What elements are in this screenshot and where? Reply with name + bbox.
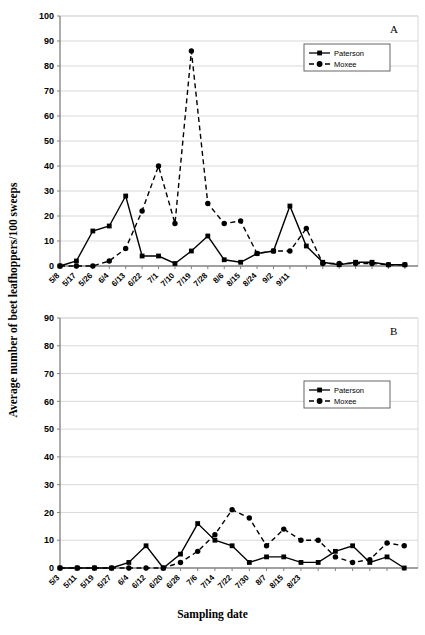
y-tick-label: 50: [44, 424, 54, 434]
x-axis-title: Sampling date: [0, 608, 425, 620]
x-tick-label: 5/26: [77, 271, 95, 289]
data-point-moxee: [123, 246, 128, 251]
x-tick-label: 7/28: [192, 271, 210, 289]
legend-label-paterson: Paterson: [334, 386, 364, 395]
x-tick-label: 5/17: [60, 271, 78, 289]
data-point-moxee: [281, 526, 286, 531]
x-tick-label: 7/19: [175, 271, 193, 289]
data-point-paterson: [333, 549, 338, 554]
legend-label-paterson: Paterson: [334, 49, 364, 58]
y-tick-label: 40: [44, 161, 54, 171]
y-tick-label: 80: [44, 61, 54, 71]
x-tick-label: 7/22: [216, 573, 234, 591]
series-line-moxee: [60, 510, 404, 568]
data-point-moxee: [320, 261, 325, 266]
y-tick-label: 90: [44, 313, 54, 323]
x-tick-label: 5/3: [47, 573, 62, 588]
data-point-paterson: [205, 234, 210, 239]
chart-b-svg: 01020304050607080905/35/115/195/276/46/1…: [26, 306, 425, 606]
data-point-moxee: [336, 261, 341, 266]
data-point-paterson: [264, 554, 269, 559]
data-point-moxee: [254, 251, 259, 256]
data-point-moxee: [139, 208, 144, 213]
x-tick-label: 8/6: [211, 271, 226, 286]
data-point-paterson: [74, 259, 79, 264]
y-tick-label: 50: [44, 136, 54, 146]
data-point-paterson: [402, 566, 407, 571]
data-point-moxee: [367, 557, 372, 562]
legend-marker-paterson: [317, 51, 322, 56]
y-tick-label: 100: [39, 11, 54, 21]
x-tick-label: 7/30: [233, 573, 251, 591]
legend-label-moxee: Moxee: [334, 60, 357, 69]
x-tick-label: 8/7: [254, 573, 269, 588]
legend-marker-moxee: [317, 61, 323, 67]
data-point-moxee: [247, 515, 252, 520]
data-point-moxee: [229, 507, 234, 512]
data-point-paterson: [238, 260, 243, 265]
data-point-paterson: [140, 254, 145, 259]
x-tick-label: 9/11: [274, 271, 291, 288]
data-point-moxee: [189, 48, 194, 53]
y-tick-label: 70: [44, 369, 54, 379]
data-point-moxee: [90, 263, 95, 268]
data-point-paterson: [156, 254, 161, 259]
data-point-moxee: [92, 565, 97, 570]
y-tick-label: 20: [44, 211, 54, 221]
x-tick-label: 5/11: [62, 573, 79, 590]
data-point-moxee: [172, 221, 177, 226]
data-point-moxee: [57, 565, 62, 570]
x-tick-label: 6/28: [165, 573, 183, 591]
data-point-moxee: [143, 565, 148, 570]
data-point-moxee: [156, 163, 161, 168]
data-point-moxee: [57, 263, 62, 268]
data-point-paterson: [123, 194, 128, 199]
panel-label-a: A: [390, 23, 398, 35]
x-tick-label: 7/6: [185, 573, 200, 588]
data-point-moxee: [222, 221, 227, 226]
x-tick-label: 6/22: [126, 271, 144, 289]
x-tick-label: 5/8: [47, 271, 62, 286]
data-point-moxee: [178, 560, 183, 565]
y-tick-label: 20: [44, 508, 54, 518]
data-point-moxee: [109, 565, 114, 570]
data-point-paterson: [350, 543, 355, 548]
y-tick-label: 30: [44, 186, 54, 196]
chart-panel-b: 01020304050607080905/35/115/195/276/46/1…: [26, 306, 425, 606]
y-tick-label: 40: [44, 452, 54, 462]
data-point-paterson: [304, 244, 309, 249]
data-point-paterson: [144, 543, 149, 548]
data-point-moxee: [75, 565, 80, 570]
data-point-moxee: [304, 226, 309, 231]
data-point-moxee: [195, 549, 200, 554]
data-point-paterson: [178, 552, 183, 557]
data-point-moxee: [287, 248, 292, 253]
x-tick-label: 6/13: [110, 271, 128, 289]
y-tick-label: 30: [44, 480, 54, 490]
data-point-paterson: [107, 224, 112, 229]
series-line-moxee: [60, 51, 405, 266]
y-axis-title-wrapper: Average number of beet leafhoppers/100 s…: [0, 0, 26, 600]
x-tick-label: 9/2: [261, 271, 276, 286]
data-point-paterson: [222, 257, 227, 262]
x-tick-label: 7/14: [199, 573, 217, 591]
chart-panel-a: 01020304050607080901005/85/175/266/46/13…: [26, 4, 425, 304]
data-point-moxee: [315, 538, 320, 543]
data-point-paterson: [126, 560, 131, 565]
panel-label-b: B: [390, 325, 397, 337]
y-tick-label: 60: [44, 111, 54, 121]
data-point-moxee: [107, 258, 112, 263]
data-point-moxee: [205, 201, 210, 206]
data-point-moxee: [386, 262, 391, 267]
x-tick-label: 5/19: [78, 573, 96, 591]
x-tick-label: 8/23: [285, 573, 303, 591]
series-line-paterson: [60, 196, 405, 266]
data-point-moxee: [161, 565, 166, 570]
data-point-moxee: [350, 560, 355, 565]
data-point-paterson: [189, 249, 194, 254]
data-point-moxee: [264, 543, 269, 548]
data-point-paterson: [90, 229, 95, 234]
data-point-paterson: [316, 560, 321, 565]
data-point-paterson: [385, 554, 390, 559]
data-point-paterson: [288, 204, 293, 209]
